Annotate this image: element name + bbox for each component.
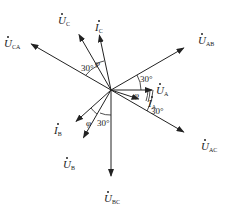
label-u-ac: UAC (201, 139, 217, 153)
svg-text:UAC: UAC (201, 140, 217, 153)
angle-30-uc-uca: 30° (81, 63, 94, 73)
svg-text:UA: UA (156, 84, 169, 97)
phasor-dot-icon (61, 13, 63, 15)
phasor-diagram: 30° φ 30° 30° φ φ 30° UAUABUCICUCAUBIBUB… (0, 0, 225, 206)
angle-phi-a: φ (134, 90, 139, 100)
phasor-i-b (76, 90, 111, 121)
label-i-c: IC (94, 20, 103, 34)
label-u-ca: UCA (4, 36, 21, 50)
phasor-dot-icon (66, 157, 68, 159)
phasor-dot-icon (159, 83, 161, 85)
svg-text:IB: IB (53, 124, 62, 137)
label-u-a: UA (156, 83, 169, 97)
label-u-ab: UAB (198, 33, 214, 47)
label-u-b: UB (63, 157, 75, 171)
label-u-c: UC (58, 13, 70, 27)
svg-text:UCA: UCA (4, 37, 21, 50)
angle-phi-c: φ (95, 58, 100, 68)
phasor-dot-icon (98, 20, 100, 22)
svg-text:IC: IC (94, 21, 103, 34)
phasor-dot-icon (204, 139, 206, 141)
phasor-dot-icon (7, 36, 9, 38)
phasor-dot-icon (201, 33, 203, 35)
phasor-i-c (99, 35, 111, 90)
angle-30-ua-uab: 30° (140, 74, 153, 84)
angle-30-ub-ubc: 30° (97, 118, 110, 128)
phasor-dot-icon (107, 191, 109, 193)
svg-text:UAB: UAB (198, 34, 214, 47)
angle-phi-b: φ (86, 118, 91, 128)
phasor-u-b (84, 90, 112, 138)
svg-text:UBC: UBC (104, 192, 120, 205)
svg-text:UC: UC (58, 14, 70, 27)
label-i-b: IB (53, 123, 62, 137)
arc-ub-ubc (100, 113, 111, 115)
phasor-dot-icon (151, 96, 153, 98)
phasor-dot-icon (57, 123, 59, 125)
label-u-bc: UBC (104, 191, 120, 205)
svg-text:UB: UB (63, 158, 75, 171)
arc-ub-ib (91, 108, 97, 114)
